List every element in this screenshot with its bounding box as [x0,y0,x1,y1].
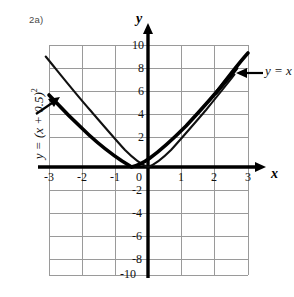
y-tick-label-minus-6: -6 [120,230,142,242]
y-tick-label-minus-4: -4 [120,207,142,219]
x-tick-label-2: 2 [206,171,222,183]
y-tick-label-4: 4 [122,108,144,120]
curve-label-y-equals-x-squared: y = x [265,64,292,77]
x-tick-label-minus-2: -2 [74,171,90,183]
curve-label-left-text: y = (x + 0.5) [31,92,46,159]
y-axis [143,23,153,278]
graph-plot-area: 10 8 6 4 2 -2 -4 -6 -8 -10 -3 -2 -1 0 1 … [0,0,294,297]
y-tick-label-2: 2 [122,131,144,143]
y-tick-label-minus-10: -10 [114,268,136,280]
curve-label-right-text: y = x [265,63,292,78]
x-tick-label-3: 3 [240,171,256,183]
x-tick-label-0: 0 [131,171,147,183]
x-axis-title: x [271,167,278,181]
annotation-arrow-right [236,68,263,78]
x-tick-label-minus-1: -1 [107,171,123,183]
curve-label-left-exponent: 2 [30,88,39,92]
y-tick-label-10: 10 [122,39,144,51]
y-axis-title: y [136,12,142,26]
y-tick-label-6: 6 [122,85,144,97]
y-tick-label-8: 8 [122,62,144,74]
y-tick-label-minus-2: -2 [120,184,142,196]
x-axis [38,162,266,172]
x-tick-label-1: 1 [173,171,189,183]
y-tick-label-minus-8: -8 [120,253,142,265]
curve-label-y-equals-x-plus-half-squared: y = (x + 0.5)2 [31,64,44,184]
